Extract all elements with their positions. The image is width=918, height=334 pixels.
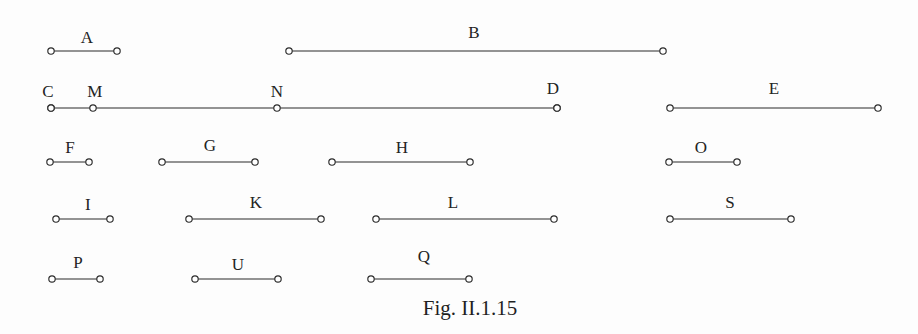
point-label-c: C [42, 83, 54, 100]
segment-label-p: P [73, 254, 83, 271]
segment-endpoint-f-end [86, 159, 92, 165]
segment-endpoint-s-start [667, 216, 673, 222]
point-label-d: D [547, 80, 559, 97]
point-label-n: N [271, 83, 283, 100]
segment-endpoint-a-start [48, 48, 54, 54]
segment-point-d [554, 105, 560, 111]
segment-endpoint-s-end [788, 216, 794, 222]
segment-endpoint-l-end [551, 216, 557, 222]
segment-endpoint-q-end [466, 276, 472, 282]
segment-endpoint-e-end [875, 105, 881, 111]
segment-endpoint-i-end [107, 216, 113, 222]
segment-endpoint-i-start [53, 216, 59, 222]
segment-endpoint-g-end [252, 159, 258, 165]
segment-label-f: F [65, 139, 75, 156]
segment-label-a: A [81, 29, 93, 46]
segment-endpoint-q-start [368, 276, 374, 282]
segment-endpoint-k-end [318, 216, 324, 222]
segments-diagram [0, 0, 918, 334]
segment-label-q: Q [418, 248, 430, 265]
segment-point-n [274, 105, 280, 111]
segment-endpoint-u-start [192, 276, 198, 282]
segment-point-c [48, 105, 54, 111]
segment-label-k: K [250, 194, 262, 211]
segment-endpoint-e-start [667, 105, 673, 111]
segment-endpoint-h-start [329, 159, 335, 165]
figure-canvas: ABECMNDFGHOIKLSPUQ Fig. II.1.15 [0, 0, 918, 334]
segment-endpoint-b-start [286, 48, 292, 54]
segment-label-o: O [695, 139, 707, 156]
segment-label-l: L [448, 194, 459, 211]
segment-label-u: U [232, 256, 244, 273]
segment-endpoint-a-end [114, 48, 120, 54]
point-label-m: M [87, 83, 102, 100]
figure-caption: Fig. II.1.15 [423, 298, 518, 319]
segment-label-h: H [396, 139, 408, 156]
segment-endpoint-h-end [467, 159, 473, 165]
segment-point-m [90, 105, 96, 111]
segment-endpoint-o-end [734, 159, 740, 165]
segment-label-s: S [725, 194, 735, 211]
segment-endpoint-u-end [275, 276, 281, 282]
segment-endpoint-l-start [373, 216, 379, 222]
segment-endpoint-p-end [97, 276, 103, 282]
segment-label-b: B [468, 24, 480, 41]
segment-endpoint-f-start [47, 159, 53, 165]
segment-endpoint-o-start [666, 159, 672, 165]
segment-label-i: I [85, 196, 91, 213]
segment-endpoint-b-end [660, 48, 666, 54]
segment-label-g: G [204, 137, 216, 154]
segment-label-e: E [769, 80, 780, 97]
segment-endpoint-g-start [159, 159, 165, 165]
segment-endpoint-p-start [49, 276, 55, 282]
segment-endpoint-k-start [186, 216, 192, 222]
